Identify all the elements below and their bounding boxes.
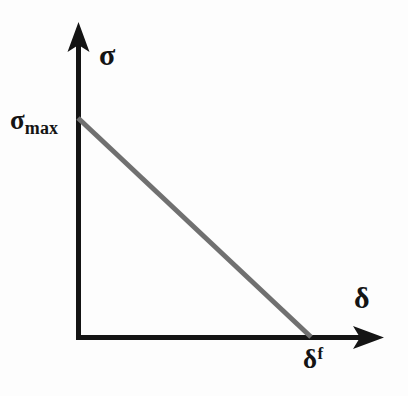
delta-f-superscript: f <box>318 344 324 363</box>
delta-f-label: δf <box>303 346 323 373</box>
separation-axis <box>76 326 384 349</box>
x-axis-label: δ <box>354 283 370 313</box>
sigma-max-label: σmax <box>10 107 58 134</box>
softening-curve <box>78 118 311 337</box>
diagram-canvas <box>0 0 408 396</box>
y-axis-label: σ <box>99 40 115 70</box>
delta-f-base: δ <box>303 344 317 374</box>
cohesive-law-figure: σ δ σmax δf <box>0 0 408 396</box>
stress-axis <box>68 22 90 338</box>
sigma-max-base: σ <box>10 105 25 135</box>
sigma-max-subscript: max <box>25 118 59 138</box>
